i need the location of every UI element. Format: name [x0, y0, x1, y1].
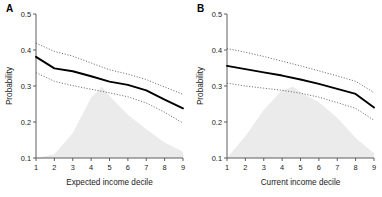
x-tick-label: 2 — [243, 163, 247, 172]
x-tick-label: 8 — [354, 163, 358, 172]
x-tick-label: 6 — [317, 163, 321, 172]
x-tick-label: 5 — [298, 163, 302, 172]
y-tick-label: 0.1 — [21, 154, 31, 163]
panel-b-plot: 0.10.20.30.40.5123456789Current income d… — [191, 0, 382, 197]
x-axis-title: Expected income decile — [66, 178, 153, 187]
y-tick-label: 0.5 — [212, 10, 222, 19]
y-axis-title: Probability — [5, 66, 14, 105]
x-tick-label: 8 — [163, 163, 167, 172]
x-tick-label: 6 — [126, 163, 130, 172]
figure-container: A 0.10.20.30.40.5123456789Expected incom… — [0, 0, 382, 197]
x-tick-label: 3 — [71, 163, 75, 172]
y-tick-label: 0.3 — [21, 82, 31, 91]
y-tick-label: 0.4 — [21, 46, 31, 55]
x-axis-title: Current income decile — [261, 178, 341, 187]
x-tick-label: 1 — [34, 163, 38, 172]
panel-a: A 0.10.20.30.40.5123456789Expected incom… — [0, 0, 191, 197]
y-tick-label: 0.3 — [212, 82, 222, 91]
y-tick-label: 0.5 — [21, 10, 31, 19]
y-tick-label: 0.2 — [21, 118, 31, 127]
x-tick-label: 3 — [262, 163, 266, 172]
y-axis-title: Probability — [196, 66, 205, 105]
x-tick-label: 4 — [280, 163, 284, 172]
panel-a-plot: 0.10.20.30.40.5123456789Expected income … — [0, 0, 191, 197]
x-tick-label: 1 — [225, 163, 229, 172]
y-tick-label: 0.2 — [212, 118, 222, 127]
density-area — [227, 87, 374, 158]
x-tick-label: 9 — [181, 163, 185, 172]
x-tick-label: 4 — [89, 163, 93, 172]
x-tick-label: 7 — [144, 163, 148, 172]
x-tick-label: 5 — [107, 163, 111, 172]
x-tick-label: 7 — [335, 163, 339, 172]
panel-b: B 0.10.20.30.40.5123456789Current income… — [191, 0, 382, 197]
x-tick-label: 9 — [372, 163, 376, 172]
y-tick-label: 0.1 — [212, 154, 222, 163]
y-tick-label: 0.4 — [212, 46, 222, 55]
x-tick-label: 2 — [52, 163, 56, 172]
